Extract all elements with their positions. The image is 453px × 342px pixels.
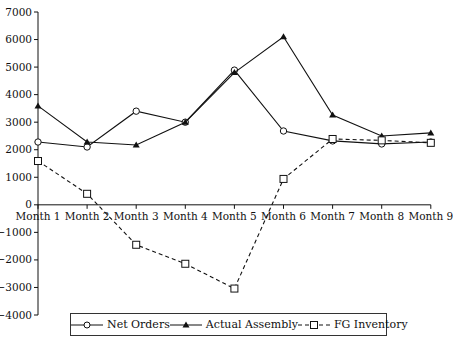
y-tick-label: −4000 bbox=[0, 309, 32, 321]
y-axis: 70006000500040003000200010000−1000−2000−… bbox=[0, 6, 38, 321]
y-tick-label: 5000 bbox=[5, 61, 32, 73]
y-tick-label: 0 bbox=[25, 198, 32, 210]
series-actual-assembly bbox=[35, 33, 435, 147]
legend-item-net-orders: Net Orders bbox=[71, 318, 170, 331]
series-layer bbox=[35, 33, 435, 292]
y-tick-label: 7000 bbox=[5, 6, 32, 18]
data-point bbox=[182, 260, 189, 267]
data-point bbox=[280, 128, 286, 134]
series-net-orders bbox=[35, 67, 434, 150]
x-tick-label: Month 8 bbox=[359, 210, 404, 222]
legend-label: Net Orders bbox=[107, 318, 170, 331]
x-axis: Month 1Month 2Month 3Month 4Month 5Month… bbox=[16, 205, 453, 222]
y-tick-label: 6000 bbox=[5, 33, 32, 45]
data-point bbox=[84, 144, 90, 150]
x-tick-label: Month 4 bbox=[163, 210, 208, 222]
data-point bbox=[280, 33, 287, 39]
x-tick-label: Month 6 bbox=[261, 210, 306, 222]
y-tick-label: 3000 bbox=[5, 116, 32, 128]
data-point bbox=[35, 139, 41, 145]
x-tick-label: Month 2 bbox=[65, 210, 110, 222]
x-tick-label: Month 9 bbox=[408, 210, 453, 222]
x-tick-label: Month 1 bbox=[16, 210, 61, 222]
y-tick-label: 4000 bbox=[5, 88, 32, 100]
data-point bbox=[35, 158, 42, 165]
y-tick-label: −2000 bbox=[0, 253, 32, 265]
legend-item-fg-inventory: FG Inventory bbox=[298, 318, 408, 331]
open-square-dashed-line-icon bbox=[298, 320, 330, 330]
data-point bbox=[231, 285, 238, 292]
line-chart: 70006000500040003000200010000−1000−2000−… bbox=[0, 0, 453, 342]
data-point bbox=[427, 139, 434, 146]
data-point bbox=[329, 135, 336, 142]
data-point bbox=[133, 241, 140, 248]
x-tick-label: Month 5 bbox=[212, 210, 257, 222]
data-point bbox=[378, 137, 385, 144]
y-tick-label: −1000 bbox=[0, 226, 32, 238]
data-point bbox=[133, 108, 139, 114]
x-tick-label: Month 7 bbox=[310, 210, 355, 222]
filled-triangle-line-icon bbox=[170, 320, 202, 330]
data-point bbox=[84, 139, 91, 145]
data-point bbox=[329, 112, 336, 118]
y-tick-label: 2000 bbox=[5, 143, 32, 155]
data-point bbox=[427, 129, 434, 135]
data-point bbox=[35, 102, 42, 108]
legend: Net Orders Actual Assembly FG Inventory bbox=[70, 313, 387, 336]
x-tick-label: Month 3 bbox=[114, 210, 159, 222]
y-tick-label: −3000 bbox=[0, 281, 32, 293]
legend-item-actual-assembly: Actual Assembly bbox=[170, 318, 298, 331]
y-tick-label: 1000 bbox=[5, 171, 32, 183]
legend-label: Actual Assembly bbox=[206, 318, 298, 331]
open-circle-line-icon bbox=[71, 320, 103, 330]
legend-label: FG Inventory bbox=[334, 318, 408, 331]
data-point bbox=[280, 175, 287, 182]
data-point bbox=[84, 190, 91, 197]
